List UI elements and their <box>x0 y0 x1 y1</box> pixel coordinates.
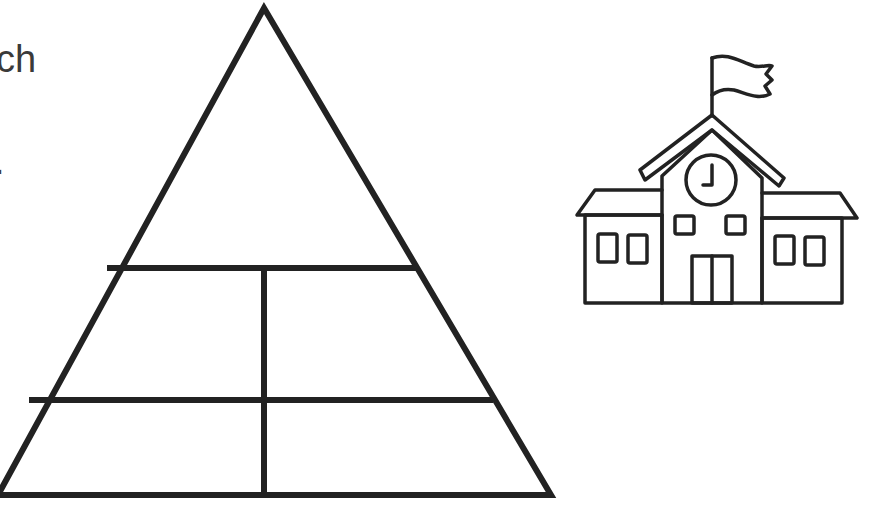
window <box>628 235 647 263</box>
flag-icon <box>712 56 772 96</box>
window <box>726 216 745 234</box>
window <box>775 236 794 264</box>
pyramid-section-middle-right[interactable] <box>275 280 445 390</box>
window <box>675 216 694 234</box>
pyramid-section-middle-left[interactable] <box>80 280 250 390</box>
pyramid-section-bottom-left[interactable] <box>20 410 250 488</box>
right-wing-roof <box>762 193 857 218</box>
pyramid-section-bottom-right[interactable] <box>275 410 525 488</box>
school-icon <box>577 56 857 303</box>
clock-hands <box>703 165 712 185</box>
left-wing-roof <box>577 190 662 215</box>
pyramid-section-top[interactable] <box>180 130 350 250</box>
window <box>805 237 824 265</box>
window <box>598 234 617 262</box>
